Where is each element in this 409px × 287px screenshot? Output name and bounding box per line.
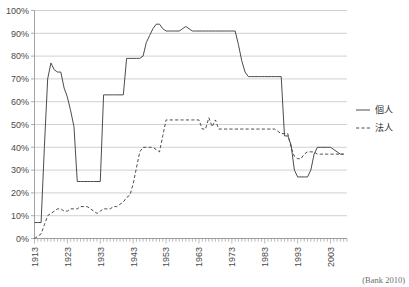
x-axis-label: 1933 <box>96 247 106 267</box>
x-axis-label: 1993 <box>293 247 303 267</box>
x-axis-labels: 1913192319331943195319631973198319932003 <box>30 247 336 267</box>
y-axis-labels: 0%10%20%30%40%50%60%70%80%90%100% <box>6 6 29 244</box>
gridlines <box>35 11 348 239</box>
x-axis-label: 1913 <box>30 247 40 267</box>
legend: 個人法人 <box>356 104 393 133</box>
y-axis-label: 0% <box>16 234 29 244</box>
x-axis-label: 2003 <box>326 247 336 267</box>
y-axis-label: 100% <box>6 6 29 16</box>
y-axis-label: 60% <box>11 97 29 107</box>
source-label: (Bank 2010) <box>362 275 405 285</box>
x-axis-label: 1963 <box>194 247 204 267</box>
x-axis-label: 1943 <box>129 247 139 267</box>
chart-figure: 0%10%20%30%40%50%60%70%80%90%100% 191319… <box>0 0 409 287</box>
y-axis-label: 30% <box>11 165 29 175</box>
y-axis-label: 10% <box>11 211 29 221</box>
series-path-hojin <box>35 118 344 239</box>
y-axis-label: 70% <box>11 74 29 84</box>
y-axis-ticks <box>31 11 35 239</box>
source-citation: (Bank 2010) <box>362 275 405 285</box>
legend-label-hojin: 法人 <box>375 122 393 133</box>
y-axis-label: 80% <box>11 51 29 61</box>
x-axis-label: 1973 <box>227 247 237 267</box>
x-axis-label: 1983 <box>260 247 270 267</box>
y-axis-label: 20% <box>11 188 29 198</box>
x-axis-tickmarks <box>35 239 348 244</box>
x-axis-label: 1923 <box>63 247 73 267</box>
line-chart: 0%10%20%30%40%50%60%70%80%90%100% 191319… <box>0 0 409 287</box>
y-axis-label: 40% <box>11 143 29 153</box>
y-axis-label: 50% <box>11 120 29 130</box>
legend-label-kojin: 個人 <box>375 104 393 115</box>
y-axis-label: 90% <box>11 29 29 39</box>
x-axis-label: 1953 <box>161 247 171 267</box>
